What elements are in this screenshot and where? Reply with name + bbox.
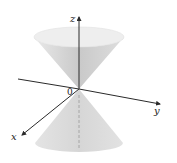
lower-cone: [35, 89, 123, 152]
double-cone-diagram: z y x 0: [0, 0, 177, 163]
y-axis: [79, 89, 160, 104]
z-axis-label: z: [69, 13, 76, 24]
x-axis-label: x: [11, 131, 17, 142]
origin-label: 0: [67, 87, 73, 97]
y-axis-label: y: [153, 105, 160, 116]
